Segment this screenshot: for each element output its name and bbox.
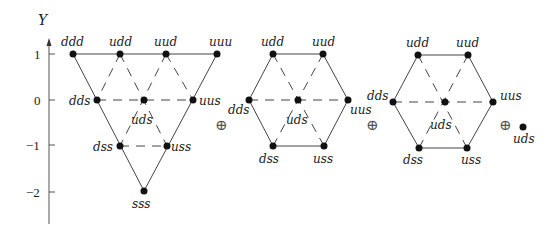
octet2-label-uud: uud [456, 36, 479, 50]
octet2-label-uus: uus [500, 89, 522, 103]
diagram-svg: Y 1 0 −1 −2 ddd udd uud uuu dds uds [0, 0, 557, 237]
decuplet-label-uud: uud [154, 35, 177, 49]
singlet: uds [513, 124, 535, 147]
decuplet-label-uus: uus [199, 94, 221, 108]
octet-2: udd uud dds uds uus dss uss [367, 36, 522, 167]
su3-multiplet-diagram: Y 1 0 −1 −2 ddd udd uud uuu dds uds [0, 0, 557, 237]
tick-label-1: 1 [34, 47, 41, 62]
decuplet-label-uds: uds [131, 113, 153, 127]
octet1-label-dds: dds [228, 103, 250, 117]
decuplet-label-uuu: uuu [209, 35, 232, 49]
y-axis: Y 1 0 −1 −2 [26, 12, 55, 224]
octet2-label-uds: uds [430, 118, 452, 132]
decuplet-label-ddd: ddd [61, 35, 84, 49]
axis-arrow-icon [47, 38, 52, 46]
tick-label-minus1: −1 [26, 138, 40, 153]
octet2-label-dds: dds [367, 89, 389, 103]
octet1-label-udd: udd [261, 35, 284, 49]
direct-sum-operator-2: ⊕ [366, 116, 379, 134]
tick-label-0: 0 [34, 93, 41, 108]
octet1-label-uud: uud [312, 35, 335, 49]
direct-sum-operator-3: ⊕ [499, 116, 512, 134]
octet2-label-udd: udd [406, 36, 429, 50]
decuplet-label-dds: dds [69, 94, 91, 108]
singlet-label-uds: uds [513, 132, 535, 146]
y-axis-label: Y [38, 12, 49, 28]
decuplet: ddd udd uud uuu dds uds uus dss uss sss [61, 35, 232, 211]
octet1-label-uds: uds [286, 113, 308, 127]
decuplet-label-udd: udd [109, 35, 132, 49]
tick-label-minus2: −2 [26, 185, 40, 200]
octet2-label-dss: dss [403, 153, 423, 167]
octet1-label-dss: dss [259, 152, 279, 166]
direct-sum-operator-1: ⊕ [215, 116, 228, 134]
octet1-label-uss: uss [313, 152, 333, 166]
octet-1: udd uud dds uds uus dss uss [228, 35, 372, 166]
decuplet-label-dss: dss [93, 140, 113, 154]
decuplet-label-uss: uss [171, 140, 191, 154]
octet2-label-uss: uss [461, 153, 481, 167]
octet1-label-uus: uus [350, 103, 372, 117]
decuplet-label-sss: sss [132, 197, 150, 211]
